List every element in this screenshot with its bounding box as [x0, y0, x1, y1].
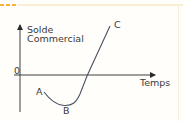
point-c-label: C: [114, 19, 121, 30]
point-a-label: A: [36, 86, 43, 97]
y-axis-label-line2: Commercial: [27, 33, 84, 44]
j-curve-chart: Solde Commercial 0 Temps A B C: [0, 0, 183, 121]
x-axis-label: Temps: [139, 77, 170, 88]
point-b-label: B: [63, 105, 70, 116]
origin-label: 0: [14, 65, 20, 76]
